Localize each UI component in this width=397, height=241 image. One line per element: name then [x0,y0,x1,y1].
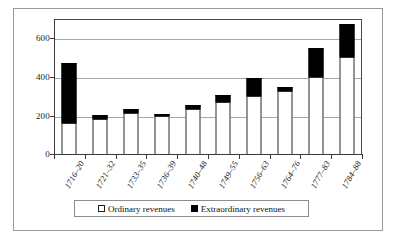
x-tick-label: 1736–39 [155,159,179,190]
bar-segment-ordinary [247,96,262,154]
bar-segment-ordinary [308,77,323,154]
bar-segment-ordinary [123,113,138,154]
bar-segment-ordinary [154,116,169,154]
x-axis-tick-labels: 1716–201721–321733–351736–391740–481749–… [54,159,362,199]
x-tick-label: 1777–83 [309,159,333,190]
x-tick-mark [362,154,363,159]
bar-segment-ordinary [93,119,108,154]
legend-item-ordinary-revenues: Ordinary revenues [98,204,175,214]
bar-group [239,19,270,154]
bar-series-group [54,19,362,154]
bar-group [270,19,301,154]
x-tick-label: 1721–32 [93,159,117,190]
chart-legend: Ordinary revenues Extraordinary revenues [74,200,309,217]
bar-group [54,19,85,154]
bar-stack [277,87,292,154]
bar-segment-extraordinary [216,95,231,102]
bar-stack [339,24,354,154]
legend-item-extraordinary-revenues: Extraordinary revenues [191,204,285,214]
bar-segment-ordinary [277,91,292,154]
bar-stack [123,109,138,154]
bar-group [300,19,331,154]
bar-segment-extraordinary [247,78,262,96]
bar-stack [308,48,323,154]
x-tick-label: 1733–35 [124,159,148,190]
filled-square-icon [191,205,198,212]
bar-group [146,19,177,154]
bar-stack [154,114,169,154]
bar-segment-extraordinary [308,48,323,77]
y-axis-tick-marks [0,19,58,155]
legend-label-ordinary-revenues: Ordinary revenues [108,204,175,214]
bar-segment-ordinary [216,102,231,154]
bar-segment-ordinary [62,123,77,154]
bar-group [85,19,116,154]
x-tick-label: 1764–76 [278,159,302,190]
bar-group [208,19,239,154]
bar-segment-ordinary [339,57,354,154]
bar-group [177,19,208,154]
bar-group [116,19,147,154]
x-tick-label: 1740–48 [185,159,209,190]
x-tick-label: 1716–20 [62,159,86,190]
bar-stack [216,95,231,154]
bar-segment-ordinary [185,109,200,154]
legend-label-extraordinary-revenues: Extraordinary revenues [201,204,285,214]
bar-segment-extraordinary [339,24,354,57]
x-tick-label: 1784–88 [339,159,363,190]
bar-segment-extraordinary [62,63,77,123]
bar-stack [93,115,108,154]
x-tick-label: 1756–63 [247,159,271,190]
bar-stack [185,105,200,154]
open-square-icon [98,205,105,212]
bar-stack [247,78,262,154]
chart-figure: 600 400 200 0 1716–201721–321733–351736–… [0,0,397,241]
bar-stack [62,63,77,154]
x-tick-label: 1749–55 [216,159,240,190]
bar-group [331,19,362,154]
